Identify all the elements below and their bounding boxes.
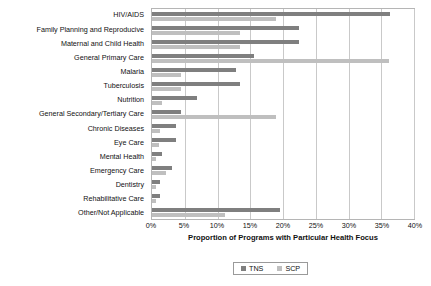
category-axis-labels: HIV/AIDSFamily Planning and ReproduciveM…: [0, 8, 148, 220]
x-tick-label: 30%: [342, 221, 356, 230]
bar-tns: [152, 138, 176, 142]
category-label: Chronic Diseases: [0, 121, 148, 135]
bar-scp: [152, 101, 162, 105]
category-label: Nutrition: [0, 93, 148, 107]
bar-row: [152, 23, 414, 37]
bar-scp: [152, 31, 240, 35]
bar-row: [152, 205, 414, 219]
bar-scp: [152, 171, 166, 175]
bar-tns: [152, 26, 299, 30]
bar-row: [152, 149, 414, 163]
bar-scp: [152, 87, 181, 91]
bar-row: [152, 107, 414, 121]
bar-tns: [152, 110, 181, 114]
bar-scp: [152, 73, 181, 77]
bar-rows: [152, 9, 414, 219]
bar-chart: HIV/AIDSFamily Planning and ReproduciveM…: [0, 0, 431, 286]
category-label: Rehabilitative Care: [0, 192, 148, 206]
bar-tns: [152, 96, 197, 100]
bar-scp: [152, 17, 276, 21]
x-tick-label: 15%: [243, 221, 257, 230]
bar-scp: [152, 115, 276, 119]
x-tick-label: 35%: [375, 221, 389, 230]
x-tick-label: 25%: [309, 221, 323, 230]
bar-row: [152, 177, 414, 191]
legend-item: SCP: [277, 265, 300, 272]
category-label: Other/Not Applicable: [0, 206, 148, 220]
bar-scp: [152, 129, 160, 133]
legend-item: TNS: [241, 265, 263, 272]
bar-tns: [152, 124, 176, 128]
bar-row: [152, 65, 414, 79]
bar-row: [152, 93, 414, 107]
legend-label: TNS: [249, 265, 263, 272]
x-axis-title: Proportion of Programs with Particular H…: [151, 233, 415, 242]
legend-swatch-icon: [277, 266, 282, 271]
x-tick-label: 10%: [210, 221, 224, 230]
category-label: General Primary Care: [0, 50, 148, 64]
bar-tns: [152, 82, 240, 86]
bar-tns: [152, 208, 280, 212]
category-label: Mental Health: [0, 149, 148, 163]
bar-tns: [152, 194, 160, 198]
bar-tns: [152, 68, 236, 72]
bar-tns: [152, 12, 390, 16]
x-axis-ticks: 0%5%10%15%20%25%30%35%40%: [151, 221, 415, 233]
bar-tns: [152, 152, 162, 156]
x-tick-label: 20%: [276, 221, 290, 230]
bar-row: [152, 121, 414, 135]
bar-scp: [152, 199, 156, 203]
bar-scp: [152, 59, 389, 63]
category-label: Dentistry: [0, 178, 148, 192]
bar-row: [152, 163, 414, 177]
category-label: Malaria: [0, 65, 148, 79]
bar-row: [152, 37, 414, 51]
bar-tns: [152, 54, 254, 58]
bar-scp: [152, 157, 156, 161]
bar-row: [152, 135, 414, 149]
bar-tns: [152, 166, 172, 170]
x-tick-label: 40%: [408, 221, 422, 230]
bar-scp: [152, 185, 156, 189]
legend-label: SCP: [285, 265, 300, 272]
bar-row: [152, 79, 414, 93]
category-label: General Secondary/Tertiary Care: [0, 107, 148, 121]
plot-area: [151, 8, 415, 220]
category-label: Emergency Care: [0, 164, 148, 178]
bar-scp: [152, 45, 240, 49]
chart-legend: TNSSCP: [233, 262, 308, 275]
legend-swatch-icon: [241, 266, 246, 271]
bar-scp: [152, 143, 159, 147]
category-label: Eye Care: [0, 135, 148, 149]
x-tick-label: 5%: [179, 221, 189, 230]
bar-tns: [152, 40, 299, 44]
x-tick-label: 0%: [146, 221, 156, 230]
gridline: [414, 9, 415, 219]
category-label: Tuberculosis: [0, 79, 148, 93]
category-label: HIV/AIDS: [0, 8, 148, 22]
bar-row: [152, 9, 414, 23]
bar-scp: [152, 213, 225, 217]
category-label: Maternal and Child Health: [0, 36, 148, 50]
bar-tns: [152, 180, 160, 184]
bar-row: [152, 51, 414, 65]
bar-row: [152, 191, 414, 205]
category-label: Family Planning and Reproducive: [0, 22, 148, 36]
